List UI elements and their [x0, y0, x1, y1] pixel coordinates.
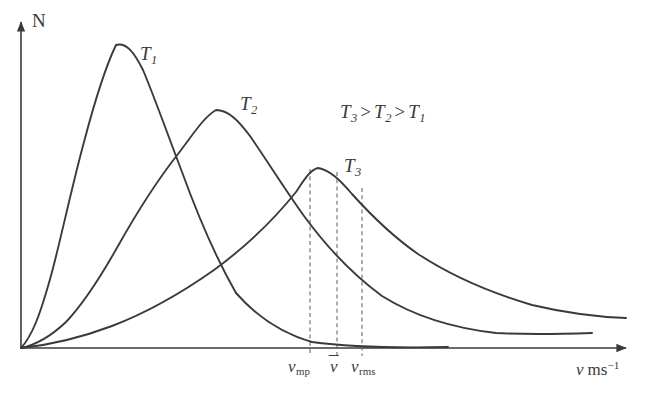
curve-label-t3-sub: 3 — [355, 165, 361, 179]
x-axis-label-unit: ms — [588, 360, 608, 379]
curve-label-t3-base: T — [344, 155, 355, 176]
curve-label-t2-sub: 2 — [251, 103, 257, 117]
tick-label-v-mp-sub: mp — [296, 365, 310, 377]
inequality-operator-2: > — [394, 101, 405, 122]
overline-bar — [329, 355, 340, 356]
x-axis-label: νms−1 — [576, 360, 619, 378]
maxwell-boltzmann-distribution-figure: N T1 T2 T3 T3>T2>T1 νmp ν νrms νms−1 — [0, 0, 648, 399]
tick-label-v-mp-base: ν — [288, 357, 296, 376]
inequality-t1-sub: 1 — [419, 111, 425, 125]
tick-label-v-rms: νrms — [351, 358, 375, 377]
chart-canvas — [0, 0, 648, 399]
inequality-t3-sub: 3 — [351, 111, 357, 125]
x-axis-label-symbol: ν — [576, 360, 584, 379]
tick-label-v-rms-base: ν — [351, 357, 359, 376]
curve-label-t1: T1 — [140, 44, 157, 66]
tick-label-v-rms-sub: rms — [359, 365, 375, 377]
v-bar-overline-wrap: ν — [330, 358, 338, 375]
x-axis-label-exponent: −1 — [607, 359, 619, 371]
curve-t1 — [21, 44, 448, 348]
curve-t2 — [21, 110, 592, 348]
inequality-t2-sub: 2 — [385, 111, 391, 125]
inequality-t2: T — [374, 101, 385, 122]
inequality-operator-1: > — [360, 101, 371, 122]
temperature-inequality-annotation: T3>T2>T1 — [340, 102, 425, 124]
curve-label-t2: T2 — [240, 94, 257, 116]
tick-label-v-mp: νmp — [288, 358, 310, 377]
inequality-t1: T — [408, 101, 419, 122]
curve-label-t1-base: T — [140, 43, 151, 64]
curve-label-t1-sub: 1 — [151, 53, 157, 67]
curve-label-t2-base: T — [240, 93, 251, 114]
y-axis-label: N — [32, 11, 46, 30]
inequality-t3: T — [340, 101, 351, 122]
curve-label-t3: T3 — [344, 156, 361, 178]
axes — [21, 22, 626, 348]
tick-label-v-bar: ν — [330, 358, 338, 375]
tick-label-v-bar-base: ν — [330, 357, 338, 376]
distribution-curves — [21, 44, 626, 348]
